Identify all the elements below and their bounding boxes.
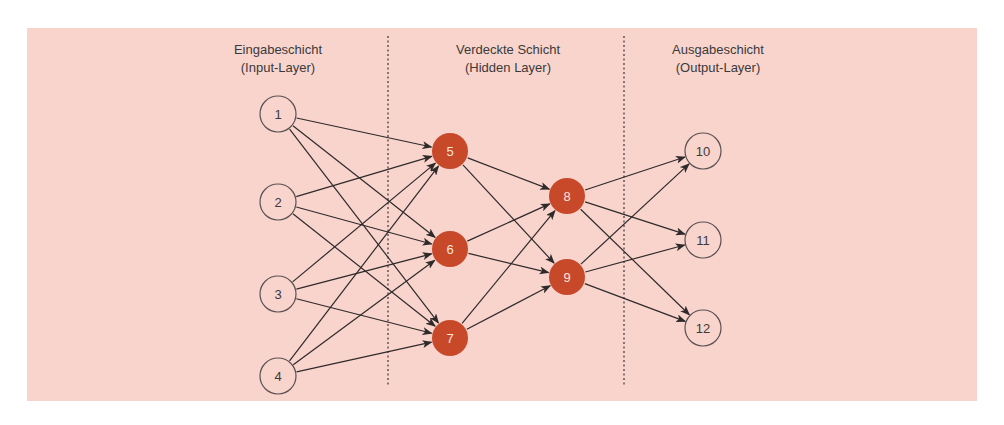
neuron-8: 8 bbox=[549, 178, 585, 214]
neuron-5: 5 bbox=[432, 133, 468, 169]
layer-subtitle-input: (Input-Layer) bbox=[241, 60, 315, 75]
edge-8-12 bbox=[581, 209, 690, 315]
edge-8-11 bbox=[585, 202, 685, 234]
neuron-label: 10 bbox=[696, 144, 710, 159]
layer-title-hidden: Verdeckte Schicht bbox=[456, 42, 560, 57]
neuron-label: 3 bbox=[274, 287, 281, 302]
edge-4-6 bbox=[293, 260, 434, 364]
edge-6-9 bbox=[468, 253, 548, 272]
neuron-4: 4 bbox=[260, 358, 296, 394]
edge-4-7 bbox=[297, 342, 432, 372]
connections bbox=[290, 118, 690, 372]
neuron-label: 4 bbox=[274, 369, 281, 384]
neuron-12: 12 bbox=[685, 310, 721, 346]
layer-subtitle-output: (Output-Layer) bbox=[676, 60, 761, 75]
neural-network-diagram: Eingabeschicht(Input-Layer)Verdeckte Sch… bbox=[0, 0, 1004, 425]
neuron-9: 9 bbox=[549, 259, 585, 295]
edge-9-11 bbox=[585, 245, 684, 272]
neuron-10: 10 bbox=[685, 133, 721, 169]
edge-3-6 bbox=[296, 254, 431, 289]
neuron-label: 6 bbox=[446, 242, 453, 257]
edge-5-9 bbox=[463, 165, 554, 263]
edge-2-7 bbox=[293, 214, 435, 326]
edge-5-8 bbox=[468, 158, 550, 189]
neuron-label: 8 bbox=[563, 189, 570, 204]
neurons: 123456789101112 bbox=[260, 96, 721, 394]
edge-8-10 bbox=[585, 157, 685, 190]
neuron-11: 11 bbox=[685, 222, 721, 258]
neuron-label: 2 bbox=[274, 195, 281, 210]
neuron-label: 12 bbox=[696, 321, 710, 336]
edge-6-8 bbox=[467, 204, 549, 241]
neuron-1: 1 bbox=[260, 96, 296, 132]
edge-9-10 bbox=[581, 164, 689, 264]
neuron-6: 6 bbox=[432, 231, 468, 267]
edge-4-5 bbox=[290, 166, 439, 361]
neuron-3: 3 bbox=[260, 276, 296, 312]
edge-3-7 bbox=[296, 299, 431, 334]
edge-7-8 bbox=[462, 211, 555, 324]
edge-9-12 bbox=[585, 284, 685, 322]
layer-subtitle-hidden: (Hidden Layer) bbox=[465, 60, 551, 75]
layer-title-output: Ausgabeschicht bbox=[672, 42, 764, 57]
neuron-7: 7 bbox=[432, 320, 468, 356]
layer-labels: Eingabeschicht(Input-Layer)Verdeckte Sch… bbox=[234, 42, 764, 75]
neuron-label: 1 bbox=[274, 107, 281, 122]
edge-2-6 bbox=[296, 207, 431, 244]
edge-7-9 bbox=[467, 286, 550, 329]
edge-2-5 bbox=[296, 156, 432, 196]
neuron-label: 7 bbox=[446, 331, 453, 346]
neuron-label: 5 bbox=[446, 144, 453, 159]
neuron-label: 9 bbox=[563, 270, 570, 285]
neuron-2: 2 bbox=[260, 184, 296, 220]
edge-1-5 bbox=[297, 118, 432, 147]
neuron-label: 11 bbox=[696, 233, 710, 248]
layer-title-input: Eingabeschicht bbox=[234, 42, 323, 57]
